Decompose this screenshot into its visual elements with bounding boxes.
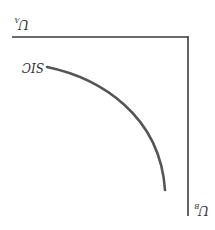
curve-label-sic: SIC (22, 60, 44, 74)
axis-label-ub: U B (194, 202, 209, 219)
svg-text:A: A (14, 16, 20, 24)
sic-curve (47, 67, 165, 190)
svg-text:B: B (194, 202, 200, 210)
svg-text:SIC: SIC (22, 60, 44, 74)
axis-label-ua: U A (14, 16, 29, 33)
sic-diagram: U A U B SIC (0, 0, 215, 230)
